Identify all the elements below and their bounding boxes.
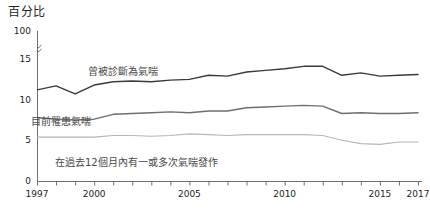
x-axis-tick-label: 2015 bbox=[368, 190, 391, 199]
y-axis-tick-label: 15 bbox=[1, 55, 31, 64]
x-axis-tick-label: 2010 bbox=[273, 190, 296, 199]
y-axis-tick-label: 5 bbox=[1, 136, 31, 145]
series-label-ever-diagnosed: 曾被診斷為氣喘 bbox=[88, 66, 158, 78]
x-axis-tick-label: 1997 bbox=[26, 190, 49, 199]
page-title: 百分比 bbox=[8, 5, 46, 19]
series-label-current-asthma: 目前罹患氣喘 bbox=[31, 116, 91, 128]
y-axis-tick-label: 10 bbox=[1, 96, 31, 105]
x-axis-tick-label: 2005 bbox=[178, 190, 201, 199]
chart-page: 百分比 100151050 199720002005201020152017 曾… bbox=[0, 0, 430, 214]
x-axis-tick-label: 2017 bbox=[407, 190, 430, 199]
series-line-1 bbox=[37, 105, 418, 120]
x-axis-tick-label: 2000 bbox=[83, 190, 106, 199]
y-axis-tick-label: 0 bbox=[1, 177, 31, 186]
series-label-asthma-attack: 在過去12個月內有一或多次氣喘發作 bbox=[55, 157, 218, 169]
y-axis-tick-label: 100 bbox=[1, 27, 31, 36]
series-line-2 bbox=[37, 134, 418, 145]
